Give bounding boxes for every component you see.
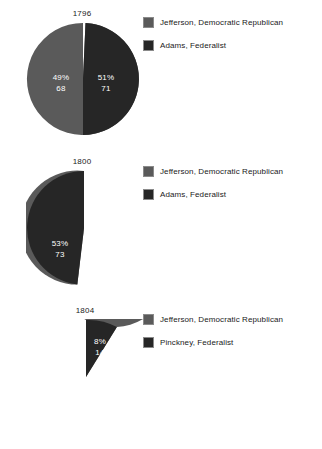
legend-item-jefferson-1800[interactable]: Jefferson, Democratic Republican — [143, 165, 283, 177]
legend-1804: Jefferson, Democratic Republican Pinckne… — [143, 313, 283, 359]
slice-label-adams-percent-1796: 51% — [98, 73, 115, 82]
legend-swatch-jefferson-icon — [143, 166, 154, 177]
legend-item-jefferson-1796[interactable]: Jefferson, Democratic Republican — [143, 16, 283, 28]
legend-label-pinckney: Pinckney, Federalist — [160, 338, 233, 347]
chart-title-1804: 1804 — [65, 306, 105, 315]
legend-swatch-adams-icon — [143, 189, 154, 200]
legend-1800: Jefferson, Democratic Republican Adams, … — [143, 165, 283, 211]
slice-label-adams-count-1796: 71 — [101, 84, 111, 93]
pie-svg-1804: 8% 14 92% 162 — [28, 319, 144, 435]
pie-1800: 53% 73 47% 65 — [26, 170, 142, 286]
legend-swatch-jefferson-icon — [143, 314, 154, 325]
pie-1804: 8% 14 92% 162 — [28, 319, 144, 435]
chart-title-1800: 1800 — [62, 157, 102, 166]
legend-label-adams: Adams, Federalist — [160, 41, 226, 50]
pie-svg-1800: 53% 73 47% 65 — [26, 170, 142, 286]
slice-label-pinckney-percent-1804: 8% — [94, 337, 106, 346]
slice-label-jefferson-count-1804: 162 — [66, 395, 80, 404]
legend-swatch-jefferson-icon — [143, 17, 154, 28]
chart-title-1796: 1796 — [62, 9, 102, 18]
slice-label-jefferson-percent-1800: 53% — [52, 239, 69, 248]
pie-chart-block-1804: 1804 8% 14 92% 162 Jefferson, Democratic… — [0, 296, 322, 449]
slice-label-jefferson-percent-1796: 49% — [53, 73, 70, 82]
pie-svg-1796: 49% 68 51% 71 — [26, 22, 140, 136]
slice-label-jefferson-count-1800: 73 — [55, 250, 65, 259]
legend-label-jefferson: Jefferson, Democratic Republican — [160, 18, 283, 27]
pie-chart-block-1800: 1800 53% 73 47% 65 Jefferson, Democratic… — [0, 146, 322, 296]
slice-label-jefferson-percent-1804: 92% — [65, 384, 82, 393]
legend-label-jefferson: Jefferson, Democratic Republican — [160, 315, 283, 324]
legend-item-adams-1800[interactable]: Adams, Federalist — [143, 188, 283, 200]
pie-chart-block-1796: 1796 49% 68 51% 71 Jefferson, Democratic… — [0, 0, 322, 146]
slice-label-pinckney-count-1804: 14 — [95, 348, 105, 357]
pie-slice-adams-1800 — [27, 171, 84, 285]
legend-1796: Jefferson, Democratic Republican Adams, … — [143, 16, 283, 62]
slice-label-adams-percent-1800: 47% — [99, 236, 116, 245]
legend-item-adams-1796[interactable]: Adams, Federalist — [143, 39, 283, 51]
legend-label-jefferson: Jefferson, Democratic Republican — [160, 167, 283, 176]
legend-item-pinckney-1804[interactable]: Pinckney, Federalist — [143, 336, 283, 348]
legend-item-jefferson-1804[interactable]: Jefferson, Democratic Republican — [143, 313, 283, 325]
slice-label-adams-count-1800: 65 — [102, 247, 112, 256]
legend-swatch-pinckney-icon — [143, 337, 154, 348]
slice-label-jefferson-count-1796: 68 — [56, 84, 66, 93]
legend-label-adams: Adams, Federalist — [160, 190, 226, 199]
pie-1796: 49% 68 51% 71 — [26, 22, 140, 136]
legend-swatch-adams-icon — [143, 40, 154, 51]
